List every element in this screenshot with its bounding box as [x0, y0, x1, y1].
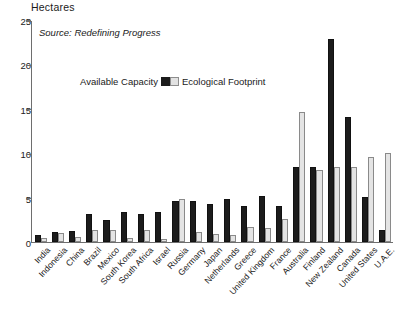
y-tick-mark: [26, 65, 31, 66]
x-tick-label: China: [64, 245, 87, 268]
bar-available-capacity: [144, 230, 150, 242]
bar-group: [135, 214, 152, 242]
bar-available-capacity: [213, 234, 219, 242]
bar-available-capacity: [127, 238, 133, 242]
bar-ecological-footprint: [155, 212, 161, 242]
y-axis-title: Hectares: [31, 1, 75, 13]
y-tick-mark: [26, 198, 31, 199]
y-tick-mark: [26, 154, 31, 155]
x-axis-labels: IndiaIndonesiaChinaBrazilMexicoSouth Kor…: [31, 245, 393, 309]
bar-available-capacity: [351, 167, 357, 242]
bar-available-capacity: [247, 227, 253, 242]
bar-available-capacity: [368, 157, 374, 242]
bar-group: [273, 206, 290, 242]
chart-legend: Available Capacity Ecological Footprint: [80, 76, 265, 87]
bar-available-capacity: [58, 233, 64, 242]
bar-group: [170, 199, 187, 243]
bar-available-capacity: [41, 238, 47, 242]
bar-available-capacity: [316, 170, 322, 242]
bar-available-capacity: [334, 167, 340, 242]
bar-available-capacity: [230, 235, 236, 242]
bar-available-capacity: [196, 232, 202, 242]
bar-available-capacity: [265, 228, 271, 242]
bar-group: [84, 214, 101, 242]
plot-frame: [31, 21, 393, 243]
bar-group: [256, 196, 273, 242]
bar-available-capacity: [161, 239, 167, 242]
bar-group: [204, 204, 221, 242]
bar-group: [32, 235, 49, 242]
y-tick-mark: [26, 109, 31, 110]
legend-label-available-capacity: Available Capacity: [80, 76, 158, 87]
legend-swatch-ecological-footprint: [161, 77, 170, 86]
legend-label-ecological-footprint: Ecological Footprint: [182, 76, 265, 87]
bar-group: [342, 117, 359, 242]
source-note: Source: Redefining Progress: [39, 27, 160, 38]
bar-group: [360, 157, 377, 242]
bar-available-capacity: [75, 237, 81, 242]
bar-group: [101, 220, 118, 242]
bar-available-capacity: [299, 112, 305, 242]
legend-swatch-available-capacity: [170, 77, 179, 86]
bar-available-capacity: [179, 199, 185, 243]
plot-area: [32, 21, 393, 242]
y-tick-mark: [26, 20, 31, 21]
bar-available-capacity: [385, 153, 391, 242]
chart-figure: Hectares 0510152025 Source: Redefining P…: [0, 0, 401, 309]
bar-available-capacity: [110, 230, 116, 242]
y-tick-label: 0: [0, 238, 31, 249]
bar-group: [66, 231, 83, 242]
bar-group: [377, 153, 394, 242]
bar-group: [118, 212, 135, 242]
bar-available-capacity: [282, 219, 288, 242]
bar-group: [187, 201, 204, 242]
bar-group: [153, 212, 170, 242]
bar-group: [308, 167, 325, 242]
bar-group: [222, 199, 239, 242]
bar-available-capacity: [92, 230, 98, 242]
bar-group: [239, 206, 256, 242]
bar-group: [49, 232, 66, 242]
bar-group: [325, 39, 342, 242]
bar-group: [291, 112, 308, 242]
